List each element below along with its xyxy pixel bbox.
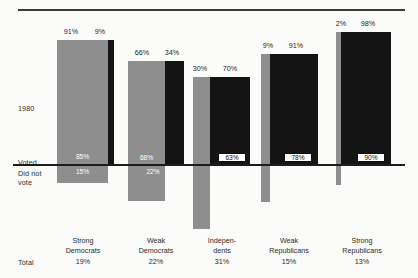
voted-pct: 90% xyxy=(357,153,385,162)
top-gray-pct: 66% xyxy=(128,48,156,57)
did-not-vote-pct: 10% xyxy=(337,168,387,175)
top-rule xyxy=(18,9,405,11)
axis-label-did-not-vote: Did not vote xyxy=(18,169,41,187)
voted-pct: 63% xyxy=(218,153,246,162)
group-label: Weak Republicans xyxy=(256,236,322,255)
group-total: 31% xyxy=(189,257,255,266)
top-dark-pct: 91% xyxy=(282,41,310,50)
group-total: 19% xyxy=(50,257,116,266)
bar-dark xyxy=(108,40,114,165)
group-label: Strong Democrats xyxy=(50,236,116,255)
did-not-vote-pct: 15% xyxy=(57,168,108,175)
top-gray-pct: 2% xyxy=(330,19,352,28)
voted-baseline xyxy=(13,164,405,166)
top-gray-pct: 91% xyxy=(56,27,86,36)
top-gray-pct: 9% xyxy=(256,41,280,50)
group-total: 13% xyxy=(329,257,395,266)
bar-gray xyxy=(193,77,210,229)
group-label: Strong Republicans xyxy=(329,236,395,255)
bar-dark xyxy=(165,61,184,165)
did-not-vote-pct: 22% xyxy=(264,168,314,175)
top-dark-pct: 98% xyxy=(354,19,382,28)
did-not-vote-pct: 22% xyxy=(128,168,178,175)
top-gray-pct: 30% xyxy=(186,64,214,73)
top-dark-pct: 9% xyxy=(88,27,112,36)
group-label: Weak Democrats xyxy=(123,236,189,255)
did-not-vote-pct: 37% xyxy=(196,168,246,175)
axis-label-total: Total xyxy=(18,258,34,267)
group-total: 22% xyxy=(123,257,189,266)
stacked-party-vote-chart: 1980 Voted Did not vote Total 91% 9% 85%… xyxy=(0,0,418,278)
bar-gray xyxy=(261,54,270,202)
top-dark-pct: 70% xyxy=(216,64,244,73)
bar-dark xyxy=(270,54,318,165)
group-label: Indepen- dents xyxy=(189,236,255,255)
bar-gray xyxy=(57,40,108,183)
year-label: 1980 xyxy=(18,104,34,113)
voted-pct: 85% xyxy=(57,153,108,160)
bar-dark xyxy=(210,77,250,165)
bar-dark xyxy=(341,32,391,165)
bar-gray xyxy=(128,61,165,201)
voted-pct: 78% xyxy=(284,153,312,162)
voted-pct: 68% xyxy=(128,154,165,161)
group-total: 15% xyxy=(256,257,322,266)
top-dark-pct: 34% xyxy=(158,48,186,57)
